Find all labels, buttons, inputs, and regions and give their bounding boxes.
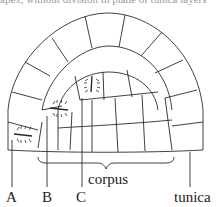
label-tunica: tunica (174, 190, 211, 205)
base-line (8, 110, 203, 152)
mitotic-figure-A (14, 126, 32, 143)
label-B: B (42, 190, 52, 205)
corpus-brace (38, 157, 174, 169)
label-A: A (6, 190, 17, 205)
mitotic-figure-B (50, 100, 68, 117)
label-C: C (76, 190, 86, 205)
corpus-arc (58, 72, 158, 110)
label-corpus: corpus (88, 172, 128, 187)
mitotic-figure-C (84, 76, 100, 92)
